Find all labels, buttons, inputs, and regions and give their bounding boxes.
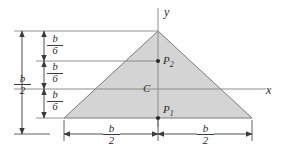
dim-label-left-seg-mid: b 6	[47, 62, 63, 84]
dim-label-bottom-right: b 2	[197, 123, 214, 146]
dim-label-left-seg-bot-num: b	[47, 90, 63, 101]
dim-label-bottom-right-num: b	[197, 123, 214, 134]
point-label-p1-base: P	[163, 103, 170, 115]
point-label-p1: P1	[163, 104, 174, 118]
point-label-p2: P2	[163, 55, 174, 69]
dim-label-left-overall-den: 2	[14, 84, 31, 96]
x-axis-label: x	[266, 84, 271, 96]
point-label-p2-base: P	[163, 54, 170, 66]
point-label-c: C	[143, 83, 150, 94]
dim-label-left-seg-bot: b 6	[47, 90, 63, 112]
dim-label-bottom-left: b 2	[103, 123, 120, 146]
point-label-p2-sub: 2	[170, 60, 174, 69]
point-label-c-base: C	[143, 82, 150, 94]
dim-label-left-seg-top: b 6	[47, 34, 63, 56]
point-marker-p2	[156, 59, 160, 63]
dim-label-left-seg-top-den: 6	[47, 45, 63, 57]
dim-label-left-seg-mid-num: b	[47, 62, 63, 73]
point-label-p1-sub: 1	[170, 109, 174, 118]
dim-label-left-overall-num: b	[14, 73, 31, 84]
dim-label-left-seg-bot-den: 6	[47, 101, 63, 113]
y-axis-label: y	[164, 6, 169, 18]
dim-label-left-seg-top-num: b	[47, 34, 63, 45]
point-marker-p1	[156, 116, 160, 120]
dim-label-left-seg-mid-den: 6	[47, 73, 63, 85]
figure-canvas: y x P2 C P1 b 2 b 6 b 6 b 6 b 2 b 2	[0, 0, 281, 158]
dim-label-bottom-left-den: 2	[103, 134, 120, 146]
dim-label-bottom-right-den: 2	[197, 134, 214, 146]
diagram-svg	[0, 0, 281, 158]
dim-label-left-overall: b 2	[14, 73, 31, 96]
dim-label-bottom-left-num: b	[103, 123, 120, 134]
